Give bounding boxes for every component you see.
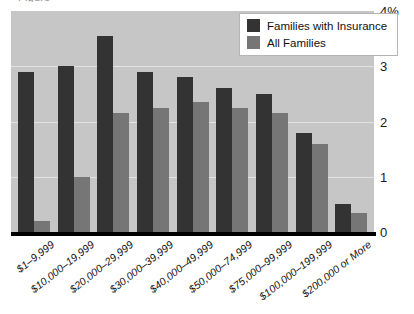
bar-series-1 xyxy=(232,108,248,232)
legend-swatch-icon-series-1 xyxy=(247,36,260,49)
bar-group xyxy=(173,11,213,232)
legend-item-all-families: All Families xyxy=(247,36,387,49)
legend-label-series-1: All Families xyxy=(267,37,326,49)
cut-off-title: Figure xyxy=(18,0,50,2)
bar-series-0 xyxy=(177,77,193,232)
bar-series-1 xyxy=(351,213,367,232)
bar-series-1 xyxy=(34,221,50,232)
legend-label-series-0: Families with Insurance xyxy=(267,20,387,32)
bar-series-0 xyxy=(137,72,153,232)
bar-series-1 xyxy=(312,144,328,232)
bar-group xyxy=(93,11,133,232)
bar-series-1 xyxy=(113,113,129,232)
bar-group xyxy=(133,11,173,232)
bar-group xyxy=(54,11,94,232)
y-axis-tick-1: 1 xyxy=(380,169,387,184)
bar-chart: Figure 01234% $1–9,999$10,000–19,999$20,… xyxy=(0,0,414,314)
bar-series-1 xyxy=(74,177,90,232)
y-axis-tick-0: 0 xyxy=(380,225,387,240)
y-axis-tick-3: 3 xyxy=(380,59,387,74)
bar-series-0 xyxy=(97,36,113,232)
bar-series-0 xyxy=(335,204,351,232)
bar-series-1 xyxy=(272,113,288,232)
bar-series-0 xyxy=(18,72,34,232)
bar-series-0 xyxy=(296,133,312,232)
x-axis-tick-label: $200,000 or More xyxy=(300,238,374,299)
x-axis-labels: $1–9,999$10,000–19,999$20,000–29,999$30,… xyxy=(11,236,374,314)
legend-swatch-icon-series-0 xyxy=(247,19,260,32)
bar-series-1 xyxy=(193,102,209,232)
legend-item-families-with-insurance: Families with Insurance xyxy=(247,19,387,32)
bar-series-0 xyxy=(58,66,74,232)
bar-group xyxy=(14,11,54,232)
x-axis-tick-label: $100,000–199,999 xyxy=(256,238,334,302)
bar-series-1 xyxy=(153,108,169,232)
bar-series-0 xyxy=(256,94,272,232)
bar-series-0 xyxy=(216,88,232,232)
chart-legend: Families with Insurance All Families xyxy=(239,13,398,56)
y-axis-tick-2: 2 xyxy=(380,114,387,129)
